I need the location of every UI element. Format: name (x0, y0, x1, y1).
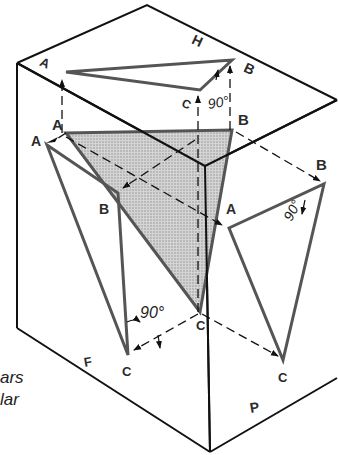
true-label-c: C (196, 318, 206, 333)
p-label-a: A (226, 201, 236, 217)
h-label-b: B (242, 59, 258, 78)
projection-box-diagram: A B C H 90° A B C A B C F 90° A B C P 90… (0, 0, 338, 455)
box-bottom-right-edge (210, 378, 337, 452)
box-bottom-left-edge (17, 328, 210, 452)
plane-label-h: H (190, 31, 206, 50)
f-label-b: B (99, 201, 109, 217)
h-label-a: A (38, 54, 53, 72)
caption-fragment-2: lar (0, 390, 20, 409)
f-view-a-arrow (46, 137, 58, 143)
p-label-c: C (278, 370, 288, 385)
h-view-triangle (66, 60, 232, 90)
f-label-c: C (122, 364, 132, 379)
p-view-triangle (229, 184, 324, 360)
true-label-b: B (238, 111, 249, 128)
f-angle-label: 90° (140, 304, 165, 321)
h-label-c: C (179, 96, 193, 112)
plane-label-f: F (83, 354, 93, 370)
true-label-a: A (52, 116, 63, 133)
caption-fragment-1: ars (0, 368, 24, 387)
plane-label-p: P (249, 399, 261, 416)
f-label-a: A (31, 133, 41, 149)
p-label-b: B (316, 156, 327, 173)
p-angle-label: 90° (280, 197, 304, 224)
f-angle-arc (127, 320, 140, 322)
h-angle-label: 90° (207, 92, 231, 112)
